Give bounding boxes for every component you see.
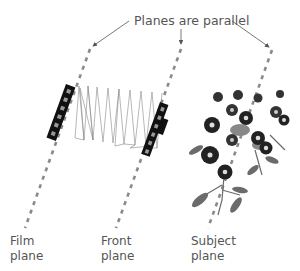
- subject-plane-label-line1: Subject: [191, 234, 236, 249]
- film-plane-line: [25, 49, 90, 228]
- subject-plane-label: Subject plane: [191, 234, 236, 264]
- film-plane-label: Film plane: [10, 234, 43, 264]
- arrow-to-film-plane: [93, 21, 129, 46]
- arrows: [93, 21, 269, 47]
- film-standard: [47, 84, 76, 141]
- front-plane-label-line2: plane: [101, 249, 134, 264]
- front-plane-label: Front plane: [101, 234, 134, 264]
- front-standard: [141, 102, 173, 158]
- flower-subject: [188, 90, 290, 215]
- subject-plane-label-line2: plane: [191, 249, 236, 264]
- camera-planes-diagram: [0, 0, 300, 271]
- arrow-to-subject-plane: [232, 21, 269, 47]
- film-plane-label-line2: plane: [10, 249, 43, 264]
- film-plane-label-line1: Film: [10, 234, 43, 249]
- front-plane-label-line1: Front: [101, 234, 134, 249]
